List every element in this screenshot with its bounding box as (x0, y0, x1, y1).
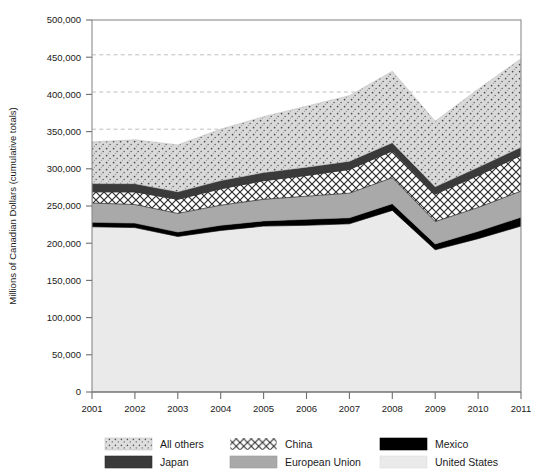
x-tick-label: 2002 (124, 403, 145, 414)
legend-swatch-china (230, 438, 277, 450)
y-tick-label: 200,000 (47, 238, 81, 249)
x-tick-label: 2010 (468, 403, 489, 414)
x-tick-label: 2008 (382, 403, 403, 414)
y-tick-label: 400,000 (47, 89, 81, 100)
x-tick-label: 2011 (511, 403, 531, 414)
x-tick-label: 2004 (210, 403, 231, 414)
legend-label-all-others: All others (160, 438, 204, 450)
y-tick-label: 250,000 (47, 200, 81, 211)
chart-legend: All others Japan China European Union Me… (105, 438, 498, 468)
legend-swatch-all-others (105, 438, 152, 450)
legend-swatch-european-union (230, 456, 277, 468)
y-tick-label: 50,000 (52, 349, 81, 360)
x-tick-label: 2007 (339, 403, 360, 414)
legend-item-japan[interactable]: Japan (105, 456, 189, 468)
legend-label-mexico: Mexico (435, 438, 468, 450)
legend-item-china[interactable]: China (230, 438, 313, 450)
x-tick-label: 2005 (253, 403, 274, 414)
legend-label-china: China (285, 438, 313, 450)
y-tick-label: 350,000 (47, 126, 81, 137)
x-axis-tick-labels: 2001 2002 2003 2004 2005 2006 2007 2008 … (81, 403, 531, 414)
legend-label-european-union: European Union (285, 456, 361, 468)
legend-swatch-mexico (380, 438, 427, 450)
legend-item-mexico[interactable]: Mexico (380, 438, 468, 450)
y-tick-label: 0 (76, 386, 81, 397)
legend-label-united-states: United States (435, 456, 498, 468)
legend-item-united-states[interactable]: United States (380, 456, 498, 468)
legend-swatch-japan (105, 456, 152, 468)
x-tick-label: 2006 (296, 403, 317, 414)
y-tick-label: 300,000 (47, 163, 81, 174)
x-tick-label: 2003 (167, 403, 188, 414)
stacked-area-chart: 500,000 450,000 400,000 350,000 300,000 … (0, 0, 536, 476)
y-tick-label: 150,000 (47, 275, 81, 286)
x-tick-label: 2001 (81, 403, 102, 414)
legend-item-all-others[interactable]: All others (105, 438, 204, 450)
y-tick-label: 500,000 (47, 14, 81, 25)
legend-item-european-union[interactable]: European Union (230, 456, 361, 468)
chart-figure: 500,000 450,000 400,000 350,000 300,000 … (0, 0, 536, 476)
y-axis-tick-labels: 500,000 450,000 400,000 350,000 300,000 … (47, 14, 81, 397)
x-axis (92, 392, 521, 399)
legend-label-japan: Japan (160, 456, 189, 468)
y-tick-label: 100,000 (47, 312, 81, 323)
y-axis-title: Millions of Canadian Dollars (cumulative… (7, 107, 18, 304)
x-tick-label: 2009 (425, 403, 446, 414)
legend-swatch-united-states (380, 456, 427, 468)
y-axis-ticks (86, 20, 92, 392)
y-tick-label: 450,000 (47, 52, 81, 63)
